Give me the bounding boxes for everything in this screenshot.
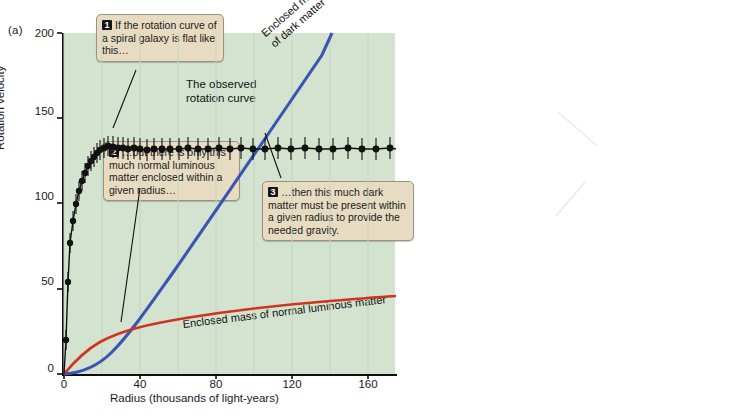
panel-b-galaxy-photo: (b) Mass enclosed within radius Normal l… xyxy=(450,0,731,417)
y-tick-label-0: 0 xyxy=(14,362,54,374)
y-tick-label-50: 50 xyxy=(14,275,54,287)
x-tick-label-160: 160 xyxy=(348,378,388,390)
y-tick-label-200: 200 xyxy=(14,27,54,39)
callout-2: 2…but there is only this much normal lum… xyxy=(103,141,240,201)
x-axis-label: Radius (thousands of light-years) xyxy=(110,392,279,404)
callout-3-text: …then this much dark matter must be pres… xyxy=(268,186,406,236)
callout-1-number: 1 xyxy=(102,20,112,30)
observed-curve-label: The observedrotation curve xyxy=(186,77,256,105)
callout-1: 1If the rotation curve of a spiral galax… xyxy=(96,14,224,62)
figure-root: (a) 200 150 100 50 0 Rotation velocity 0… xyxy=(0,0,731,417)
callout-2-number: 2 xyxy=(109,147,119,157)
x-tick-label-0: 0 xyxy=(44,378,84,390)
callout-1-text: If the rotation curve of a spiral galaxy… xyxy=(102,19,217,56)
panel-a-rotation-curve: (a) 200 150 100 50 0 Rotation velocity 0… xyxy=(0,0,450,417)
x-tick-label-80: 80 xyxy=(196,378,236,390)
callout-2-text: …but there is only this much normal lumi… xyxy=(109,146,226,196)
callout-3: 3…then this much dark matter must be pre… xyxy=(262,181,414,241)
x-tick-label-120: 120 xyxy=(272,378,312,390)
y-tick-label-150: 150 xyxy=(14,105,54,117)
y-axis-label: Rotation velocity xyxy=(0,66,6,150)
cropped-top-text xyxy=(18,0,218,7)
callout-3-number: 3 xyxy=(268,187,278,197)
x-tick-label-40: 40 xyxy=(120,378,160,390)
x-axis-line xyxy=(62,374,397,376)
y-tick-label-100: 100 xyxy=(14,190,54,202)
